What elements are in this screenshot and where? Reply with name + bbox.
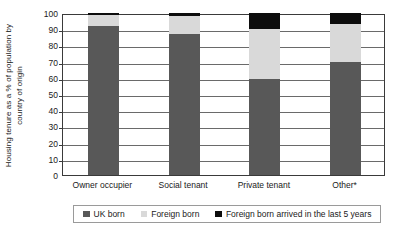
bar-segment[interactable] (88, 13, 119, 15)
y-axis-tick-label: 90 (32, 26, 58, 35)
bar-segment[interactable] (249, 13, 280, 29)
bar-segment[interactable] (249, 79, 280, 175)
x-axis-tick-label: Other* (304, 180, 385, 190)
legend-label: Foreign born (151, 210, 199, 219)
y-axis-tick-label: 70 (32, 59, 58, 68)
legend-label: Foreign born arrived in the last 5 years (226, 210, 372, 219)
y-axis-tick-labels: 1009080706050403020100 (28, 0, 58, 190)
bar-segment[interactable] (330, 13, 361, 24)
chart-legend: UK bornForeign bornForeign born arrived … (73, 205, 381, 223)
bar-segment[interactable] (330, 24, 361, 61)
legend-swatch-icon (83, 211, 90, 218)
y-axis-tick-label: 100 (32, 10, 58, 19)
y-axis-title-line-2: country of origin (15, 23, 26, 166)
legend-item[interactable]: Foreign born arrived in the last 5 years (215, 210, 371, 219)
y-axis-tick-label: 60 (32, 75, 58, 84)
bar-group[interactable] (249, 15, 280, 175)
bar-group[interactable] (330, 15, 361, 175)
y-axis-tick-label: 50 (32, 91, 58, 100)
y-axis-tick-label: 20 (32, 140, 58, 149)
legend-swatch-icon (215, 211, 222, 218)
x-axis-tick-label: Private tenant (224, 180, 305, 190)
bar-segment[interactable] (169, 16, 200, 34)
bar-series-container (63, 15, 384, 175)
legend-item[interactable]: Foreign born (141, 210, 200, 219)
bar-group[interactable] (169, 15, 200, 175)
bar-segment[interactable] (88, 15, 119, 26)
stacked-bar-chart: Housing tenure as a % of population by c… (0, 0, 414, 232)
bar-segment[interactable] (88, 26, 119, 175)
y-axis-tick-label: 80 (32, 42, 58, 51)
y-axis-tick-label: 0 (32, 172, 58, 181)
y-axis-tick-label: 30 (32, 123, 58, 132)
legend-swatch-icon (141, 211, 148, 218)
y-axis-title: Housing tenure as a % of population by c… (0, 0, 30, 190)
x-axis-line (62, 175, 385, 176)
legend-item[interactable]: UK born (83, 210, 125, 219)
y-axis-tick-label: 10 (32, 156, 58, 165)
y-axis-tick-label: 40 (32, 107, 58, 116)
bar-group[interactable] (88, 15, 119, 175)
bar-segment[interactable] (169, 13, 200, 16)
plot-area (62, 14, 385, 176)
y-axis-title-line-1: Housing tenure as a % of population by (5, 23, 14, 166)
x-axis-tick-label: Owner occupier (62, 180, 143, 190)
x-axis-tick-label: Social tenant (143, 180, 224, 190)
bar-segment[interactable] (169, 34, 200, 175)
x-axis-tick-labels: Owner occupierSocial tenantPrivate tenan… (62, 180, 385, 196)
bar-segment[interactable] (330, 62, 361, 175)
legend-label: UK born (94, 210, 125, 219)
bar-segment[interactable] (249, 29, 280, 79)
